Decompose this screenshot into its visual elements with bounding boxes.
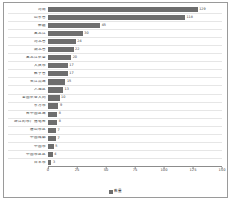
bar [48,63,68,68]
x-axis-tick: 100 [161,167,168,173]
bar [48,71,68,76]
category-label: 中国市区区 [8,153,48,157]
bar-row: 大庆市17 [8,62,222,70]
x-axis-tick: 125 [190,167,197,173]
chart-frame: 河南129山东省118新疆45黑龙江30河北省24湖北省22黑龙江农垦20大庆市… [3,2,228,198]
category-label: 大庆市 [8,64,48,68]
bar-row: 河北省24 [8,38,222,46]
category-label: 中国成都 [8,136,48,140]
category-label: 新疆 [8,24,48,28]
bar [48,7,198,12]
category-label: 湖北省 [8,48,48,52]
x-axis-tick: 75 [133,167,138,173]
bar-row: 中国市区区4 [8,151,222,159]
bar [48,95,60,100]
bar [48,120,57,125]
bar-row: 全国农业大同10 [8,95,222,103]
category-label: 数字省 [8,72,48,76]
category-label: 日本市 [8,161,48,165]
bar-value-label: 7 [58,129,60,132]
bar [48,31,83,36]
bar [48,79,65,84]
legend-label: 数量 [114,190,122,194]
bar [48,55,71,60]
bar-track: 8 [48,111,222,118]
x-axis-tick: 150 [219,167,226,173]
bar-track: 13 [48,86,222,93]
tick-mark [135,167,136,169]
bar [48,23,100,28]
bar-track: 17 [48,70,222,77]
bar [48,15,185,20]
x-axis-tick: 50 [104,167,109,173]
bar-track: 129 [48,6,222,13]
bar-track: 7 [48,135,222,142]
bar-track: 7 [48,127,222,134]
bar-value-label: 24 [77,40,81,43]
bar-row: 山东省118 [8,14,222,22]
bar-row: 中国成都7 [8,135,222,143]
category-label: 台中国区域 [8,112,48,116]
category-label: 唐山市区 [8,128,48,132]
bar-row: 台中国区域8 [8,111,222,119]
chart-legend: 数量 [4,190,227,194]
tick-mark [222,167,223,169]
bar-rows: 河南129山东省118新疆45黑龙江30河北省24湖北省22黑龙江农垦20大庆市… [8,6,222,166]
bar-row: 新疆45 [8,22,222,30]
x-axis-tick: 0 [47,167,49,173]
bar-track: 10 [48,95,222,102]
bar-track: 17 [48,62,222,69]
tick-mark [48,167,49,169]
bar [48,39,76,44]
bar-row: 唐山市区7 [8,127,222,135]
bar-row: 东方市9 [8,103,222,111]
bar-track: 118 [48,14,222,21]
bar-value-label: 20 [73,56,77,59]
chart-screenshot: 河南129山东省118新疆45黑龙江30河北省24湖北省22黑龙江农垦20大庆市… [0,0,231,200]
bar-value-label: 15 [67,80,71,83]
bar-row: 黑龙江30 [8,30,222,38]
bar-track: 9 [48,103,222,110]
bar-row: 长江流域15 [8,78,222,86]
bar-value-label: 13 [65,88,69,91]
bar-value-label: 129 [199,8,205,11]
x-axis-tick: 25 [75,167,80,173]
bar-value-label: 3 [53,161,55,164]
bar-row: 入地区13 [8,86,222,94]
bar-value-label: 10 [61,96,65,99]
bar-track: 45 [48,22,222,29]
bar-value-label: 17 [69,64,73,67]
category-label: 全国农业大同 [8,96,48,100]
bar-track: 22 [48,46,222,53]
bar-track: 30 [48,30,222,37]
bar-track: 8 [48,119,222,126]
category-label: 河南 [8,8,48,12]
tick-mark [164,167,165,169]
bar [48,144,54,149]
bar-track: 20 [48,54,222,61]
bar [48,112,57,117]
bar [48,103,58,108]
plot-area: 河南129山东省118新疆45黑龙江30河北省24湖北省22黑龙江农垦20大庆市… [8,6,222,175]
category-label: 入地区 [8,88,48,92]
tick-mark [193,167,194,169]
bar [48,87,63,92]
bar-value-label: 8 [59,120,61,123]
category-label: 河北省 [8,40,48,44]
x-axis-ticks: 0255075100125150 [48,167,222,175]
bar-row: 日本市3 [8,159,222,166]
bar-value-label: 22 [75,48,79,51]
bar [48,136,56,141]
bar [48,128,56,133]
legend-swatch-icon [109,190,113,194]
bar-value-label: 8 [59,112,61,115]
bar-track: 5 [48,143,222,150]
bar-value-label: 9 [60,104,62,107]
category-label: 山东省 [8,16,48,20]
category-label: 中国市 [8,145,48,149]
tick-mark [106,167,107,169]
bar [48,47,74,52]
bar-row: 湖北省22 [8,46,222,54]
bar [48,152,53,157]
tick-mark [77,167,78,169]
